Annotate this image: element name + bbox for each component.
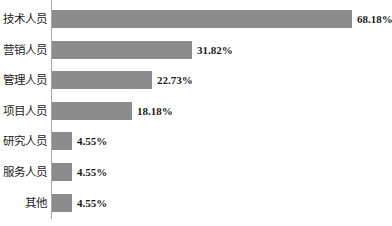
category-label: 管理人员 [0,72,47,89]
bar-value-label: 22.73% [157,72,193,89]
plot-area: 技术人员68.18%营销人员31.82%管理人员22.73%项目人员18.18%… [0,0,392,226]
category-label: 其他 [0,195,47,212]
bar-value-label: 4.55% [77,195,107,212]
bar-value-label: 4.55% [77,133,107,150]
bar-value-label: 18.18% [137,103,173,120]
bar [52,10,352,28]
bar [52,194,72,212]
category-label: 服务人员 [0,164,47,181]
category-label: 研究人员 [0,133,47,150]
bar [52,163,72,181]
bar [52,71,152,89]
bar [52,132,72,150]
category-label: 营销人员 [0,42,47,59]
bar-value-label: 68.18% [357,11,392,28]
horizontal-bar-chart: 技术人员68.18%营销人员31.82%管理人员22.73%项目人员18.18%… [0,0,392,226]
bar [52,41,192,59]
bar-value-label: 4.55% [77,164,107,181]
category-label: 项目人员 [0,103,47,120]
category-label: 技术人员 [0,11,47,28]
bar-value-label: 31.82% [197,42,233,59]
bar [52,102,132,120]
